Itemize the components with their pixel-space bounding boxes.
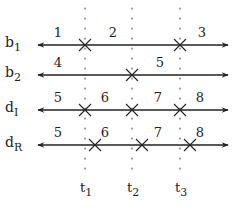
segment-label: 8 — [196, 90, 204, 105]
time-marker-label: t2 — [127, 180, 139, 199]
segment-label: 2 — [109, 25, 117, 40]
segment-label: 8 — [196, 125, 204, 140]
row-label: dR — [5, 134, 23, 154]
row-dR: dR5678 — [5, 125, 228, 154]
time-marker-label: t3 — [175, 180, 187, 199]
timeline-diagram: b1123b245dI5678dR5678 t1t2t3 — [0, 0, 242, 208]
time-marker-labels: t1t2t3 — [80, 180, 187, 199]
row-label: b1 — [5, 34, 21, 54]
time-marker-label: t1 — [80, 180, 92, 199]
segment-label: 7 — [154, 90, 162, 105]
segment-label: 3 — [198, 25, 206, 40]
segment-label: 4 — [54, 55, 62, 70]
segment-label: 6 — [101, 125, 109, 140]
row-label: dI — [5, 99, 18, 119]
signal-rows: b1123b245dI5678dR5678 — [5, 25, 228, 154]
segment-label: 7 — [154, 125, 162, 140]
segment-label: 1 — [54, 25, 62, 40]
row-dI: dI5678 — [5, 90, 228, 119]
segment-label: 5 — [54, 125, 62, 140]
row-label: b2 — [5, 64, 21, 84]
segment-label: 5 — [156, 55, 164, 70]
row-b2: b245 — [5, 55, 228, 84]
segment-label: 6 — [101, 90, 109, 105]
segment-label: 5 — [54, 90, 62, 105]
row-b1: b1123 — [5, 25, 228, 54]
